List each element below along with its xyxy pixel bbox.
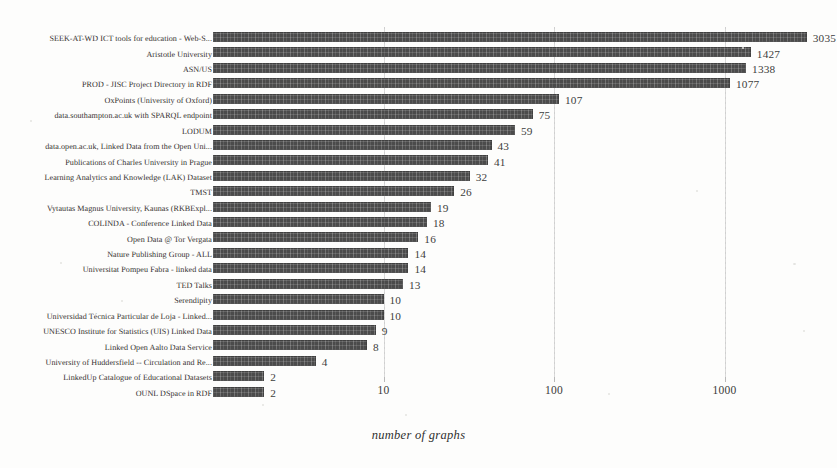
bar-row[interactable]: University of Huddersfield -- Circulatio… bbox=[0, 354, 837, 369]
bar-value-label: 3035 bbox=[813, 32, 836, 44]
bar-value-label: 1427 bbox=[757, 48, 780, 60]
bar-row[interactable]: Nature Publishing Group - ALL14 bbox=[0, 246, 837, 261]
bar-row[interactable]: OxPoints (University of Oxford)107 bbox=[0, 92, 837, 107]
bar-row[interactable]: SEEK-AT-WD ICT tools for education - Web… bbox=[0, 31, 837, 46]
bar-row[interactable]: Linked Open Aalto Data Service8 bbox=[0, 339, 837, 354]
bar[interactable] bbox=[213, 232, 418, 242]
bar[interactable] bbox=[213, 202, 431, 212]
bar[interactable] bbox=[213, 248, 408, 258]
bar-category-label: LODUM bbox=[182, 126, 212, 135]
bar-row[interactable]: PROD - JISC Project Directory in RDF1077 bbox=[0, 77, 837, 92]
bar[interactable] bbox=[213, 140, 492, 150]
scan-speck bbox=[793, 263, 796, 265]
bar[interactable] bbox=[213, 78, 730, 88]
bar[interactable] bbox=[213, 171, 470, 181]
bar[interactable] bbox=[213, 340, 367, 350]
bar-value-label: 1338 bbox=[752, 63, 775, 75]
bar-category-label: Nature Publishing Group - ALL bbox=[107, 250, 212, 259]
bar-value-label: 107 bbox=[565, 94, 583, 106]
bar[interactable] bbox=[213, 155, 488, 165]
bar[interactable] bbox=[213, 94, 559, 104]
bar-row[interactable]: OUNL DSpace in RDF2 bbox=[0, 385, 837, 400]
bar[interactable] bbox=[213, 356, 316, 366]
bar[interactable] bbox=[213, 325, 376, 335]
scan-speck bbox=[262, 404, 264, 406]
bar-category-label: OxPoints (University of Oxford) bbox=[105, 95, 212, 104]
bar-value-label: 10 bbox=[390, 310, 402, 322]
bar-value-label: 8 bbox=[373, 341, 379, 353]
bar-row[interactable]: Open Data @ Tor Vergata16 bbox=[0, 231, 837, 246]
bar-row[interactable]: Serendipity10 bbox=[0, 293, 837, 308]
bar-row[interactable]: ASN/US1338 bbox=[0, 61, 837, 76]
bar[interactable] bbox=[213, 387, 264, 397]
bar[interactable] bbox=[213, 263, 408, 273]
bar[interactable] bbox=[213, 63, 746, 73]
bar-category-label: Aristotle University bbox=[146, 49, 212, 58]
bar[interactable] bbox=[213, 371, 264, 381]
bar-row[interactable]: LODUM59 bbox=[0, 123, 837, 138]
bar-row[interactable]: data.southampton.ac.uk with SPARQL endpo… bbox=[0, 108, 837, 123]
bar-value-label: 41 bbox=[494, 156, 506, 168]
bar-category-label: Publications of Charles University in Pr… bbox=[65, 157, 212, 166]
bar-category-label: TED Talks bbox=[177, 280, 212, 289]
bar-category-label: University of Huddersfield -- Circulatio… bbox=[46, 358, 212, 367]
bar-value-label: 18 bbox=[433, 217, 445, 229]
bar-row[interactable]: Universitat Pompeu Fabra - linked data14 bbox=[0, 262, 837, 277]
bar-category-label: Serendipity bbox=[174, 296, 212, 305]
bar[interactable] bbox=[213, 217, 427, 227]
bar-row[interactable]: Universidad Técnica Particular de Loja -… bbox=[0, 308, 837, 323]
scan-speck bbox=[696, 190, 698, 192]
bar-value-label: 2 bbox=[270, 387, 276, 399]
bar-row[interactable]: LinkedUp Catalogue of Educational Datase… bbox=[0, 370, 837, 385]
bar-value-label: 2 bbox=[270, 371, 276, 383]
plot-area: 101001000 SEEK-AT-WD ICT tools for educa… bbox=[0, 0, 837, 468]
bar-value-label: 4 bbox=[322, 356, 328, 368]
bar-value-label: 32 bbox=[476, 171, 488, 183]
bar-category-label: Open Data @ Tor Vergata bbox=[127, 234, 212, 243]
bar[interactable] bbox=[213, 109, 533, 119]
bar[interactable] bbox=[213, 125, 515, 135]
scan-speck bbox=[742, 47, 744, 49]
bar-category-label: TMST bbox=[190, 188, 212, 197]
bar[interactable] bbox=[213, 47, 751, 57]
bar-row[interactable]: Vytautas Magnus University, Kaunas (RKBE… bbox=[0, 200, 837, 215]
bar-row[interactable]: Learning Analytics and Knowledge (LAK) D… bbox=[0, 169, 837, 184]
bar[interactable] bbox=[213, 279, 403, 289]
bar-value-label: 1077 bbox=[736, 78, 759, 90]
bar-category-label: UNESCO Institute for Statistics (UIS) Li… bbox=[43, 327, 212, 336]
bar-category-label: Vytautas Magnus University, Kaunas (RKBE… bbox=[47, 203, 212, 212]
bar-row[interactable]: Aristotle University1427 bbox=[0, 46, 837, 61]
bar[interactable] bbox=[213, 32, 807, 42]
bar-category-label: data.southampton.ac.uk with SPARQL endpo… bbox=[54, 111, 212, 120]
bar[interactable] bbox=[213, 294, 384, 304]
scan-speck bbox=[608, 393, 610, 395]
bar-row[interactable]: COLINDA - Conference Linked Data18 bbox=[0, 216, 837, 231]
bar-category-label: Universitat Pompeu Fabra - linked data bbox=[83, 265, 212, 274]
scan-speck bbox=[121, 300, 123, 302]
bar-row[interactable]: TMST26 bbox=[0, 185, 837, 200]
scan-speck bbox=[60, 262, 62, 264]
bar-value-label: 19 bbox=[437, 202, 449, 214]
bar-row[interactable]: Publications of Charles University in Pr… bbox=[0, 154, 837, 169]
bar-category-label: PROD - JISC Project Directory in RDF bbox=[82, 80, 212, 89]
bar-value-label: 26 bbox=[460, 186, 472, 198]
bar-value-label: 59 bbox=[521, 125, 533, 137]
bar-category-label: LinkedUp Catalogue of Educational Datase… bbox=[63, 373, 212, 382]
bar-row[interactable]: data.open.ac.uk, Linked Data from the Op… bbox=[0, 138, 837, 153]
bar-category-label: COLINDA - Conference Linked Data bbox=[88, 219, 212, 228]
bar-row[interactable]: UNESCO Institute for Statistics (UIS) Li… bbox=[0, 323, 837, 338]
chart-container: 101001000 SEEK-AT-WD ICT tools for educa… bbox=[0, 0, 837, 468]
bar-value-label: 75 bbox=[539, 109, 551, 121]
bar-row[interactable]: TED Talks13 bbox=[0, 277, 837, 292]
bar[interactable] bbox=[213, 310, 384, 320]
scan-speck bbox=[405, 414, 407, 416]
bar-category-label: Universidad Técnica Particular de Loja -… bbox=[47, 311, 212, 320]
bar-category-label: data.open.ac.uk, Linked Data from the Op… bbox=[45, 142, 212, 151]
bar[interactable] bbox=[213, 186, 454, 196]
bar-category-label: ASN/US bbox=[183, 65, 212, 74]
bar-value-label: 10 bbox=[390, 294, 402, 306]
bar-value-label: 14 bbox=[414, 263, 426, 275]
bar-category-label: SEEK-AT-WD ICT tools for education - Web… bbox=[49, 34, 212, 43]
bar-category-label: Linked Open Aalto Data Service bbox=[105, 342, 212, 351]
bar-category-label: OUNL DSpace in RDF bbox=[136, 388, 212, 397]
